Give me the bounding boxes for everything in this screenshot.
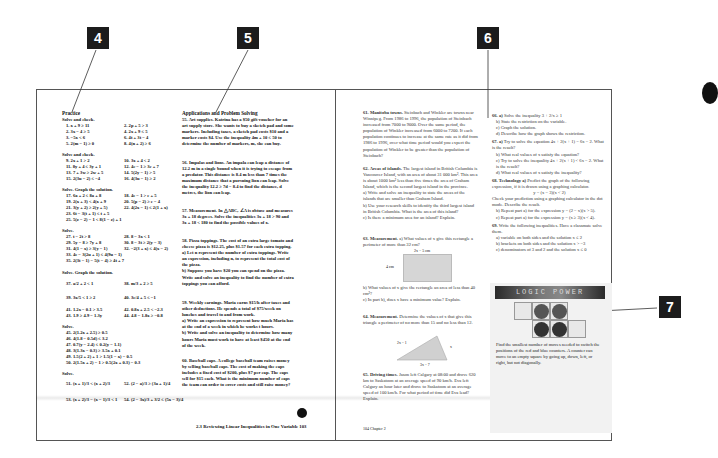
part-label: b) <box>496 241 500 246</box>
empty-square <box>568 320 586 338</box>
problem-label: 69. <box>492 223 498 228</box>
rectangle-side-label: 4 cm <box>386 264 394 270</box>
exercise-item: 15. 2(3u − 2) ≤ −4 <box>66 176 100 182</box>
problem-label: 65. Driving times. <box>363 372 398 377</box>
exercise-item: 32. −2(3 + x) ≤ 4(x − 2) <box>124 246 168 252</box>
part-text: Suppose you have $20 you can spend on th… <box>182 268 294 285</box>
part-text: What values of x give the rectangle an a… <box>363 285 475 296</box>
exercise-item: 43. 1.9 ≥ 4.9 − 1.3y <box>66 313 102 319</box>
problem-56: 56. Impalas and lions. An impala can lea… <box>182 160 294 197</box>
practice-heading: Practice <box>62 110 172 116</box>
exercise-item: 50. 2(1.5x + 2) − 1 > 0.5(2x + 0.3) − 0.… <box>66 360 140 366</box>
part-label: b) <box>363 285 367 290</box>
part-text: Write and solve an inequality to determi… <box>182 330 292 347</box>
part-text: What real values of x satisfy the inequa… <box>501 170 582 175</box>
problem-label: 66. a) <box>492 113 503 118</box>
callout-4: 4 <box>87 27 109 49</box>
part-label: c) <box>496 158 500 163</box>
problem-label: 59. Weekly earnings. <box>182 300 223 305</box>
problem-text: Steinbach and Winkler are towns near Win… <box>363 110 478 158</box>
blue-counter <box>534 322 549 337</box>
blue-counter <box>552 322 567 337</box>
exercise-item: 22. 4(2x − 1) ≤ 2(1 + x) <box>124 205 168 211</box>
problem-text: Solve the inequality 3 + 2/x ≥ 1 <box>504 113 562 118</box>
problem-label: 62. Areas of islands. <box>363 166 402 171</box>
part-text: In part b), does x have a minimum value?… <box>368 297 461 302</box>
problem-64: 64. Measurement. Determine the values of… <box>363 314 478 326</box>
problem-60: 60. Baseball caps. A college baseball te… <box>182 358 294 388</box>
part-text: Write an expression to represent how muc… <box>182 318 293 329</box>
part-label: c) <box>363 215 367 220</box>
problem-label: 60. Baseball caps. <box>182 358 216 363</box>
part-label: c) <box>496 247 500 252</box>
triangle-bottom-label: 3x − 7 <box>420 362 430 368</box>
problem-label: 63. Measurement. <box>363 236 398 241</box>
exercise-item: 25. 5(z − 2) − 1 < 8(1 − z) + 1 <box>66 217 121 223</box>
problem-label: 58. Pizza toppings. <box>182 238 219 243</box>
triangle-diagram <box>395 334 455 364</box>
part-text: Check your prediction using a graphing c… <box>492 196 603 207</box>
part-label: a) <box>363 190 367 195</box>
problem-label: 68. Technology a) <box>492 178 526 183</box>
exercise-item: 52. (2 − a)/3 ≥ (3a + 1)/4 <box>124 381 170 387</box>
exercise-item: 53. (x + 2)/3 − (x − 1)/3 < 1 <box>66 397 117 403</box>
problem-label: 67. a) <box>492 139 503 144</box>
part-label: a) <box>496 235 500 240</box>
problem-58: 58. Pizza toppings. The cost of an extra… <box>182 238 294 287</box>
part-label: c) <box>496 215 500 220</box>
part-label: a) <box>182 318 186 323</box>
part-label: b) <box>363 203 367 208</box>
group-title: Solve. <box>62 371 74 377</box>
exercise-item: 38. m/3 + 2 ≥ 5 <box>124 281 153 287</box>
part-text: State the restriction on the variable. <box>501 119 566 124</box>
exercise-item: 54. (2 − 3x)/3 + 3/2 ≤ (5x − 3)/4 <box>124 397 183 403</box>
callout-6: 6 <box>477 27 499 49</box>
problem-label: 56. Impalas and lions. <box>182 160 225 165</box>
problem-63: 63. Measurement. a) What values of x giv… <box>363 236 478 248</box>
triangle-left-label: 2x − 1 <box>397 340 407 346</box>
logic-power-text: Find the smallest number of moves needed… <box>496 342 602 366</box>
part-text: variable on both sides and the solution … <box>501 235 582 240</box>
expression: y = (x − 3)(x < 2) <box>533 190 565 195</box>
part-label: c) <box>496 125 500 130</box>
part-text: What real values of x satisfy the equati… <box>501 152 579 157</box>
problem-59: 59. Weekly earnings. Maria earns $15/h a… <box>182 300 294 349</box>
rectangle-diagram <box>403 254 452 282</box>
part-text: Repeat part a) for the expression y = (2… <box>501 208 595 213</box>
callout-5: 5 <box>237 27 259 49</box>
scan-blot <box>702 82 718 104</box>
problem-text: Write the following inequalities. Have a… <box>492 223 602 234</box>
part-text: brackets on both sides and the solution … <box>501 241 585 246</box>
part-label: d) <box>496 170 500 175</box>
problem-65: 65. Driving times. Jason left Calgary at… <box>363 372 478 402</box>
empty-square <box>514 302 532 320</box>
part-text: Graph the solution. <box>501 125 536 130</box>
problem-label: 57. Measurement. <box>182 208 217 213</box>
problem-label: 61. Manitoba towns. <box>363 110 403 115</box>
part-label: b) <box>496 152 500 157</box>
part-text: denominators of 3 and 2 and the solution… <box>501 247 587 252</box>
part-label: b) <box>496 208 500 213</box>
group-title: Solve. Graph the solution. <box>62 270 113 276</box>
part-text: Use your research skills to identify the… <box>363 203 474 214</box>
problem-text: An impala can leap a distance of 12.2 m … <box>182 160 292 195</box>
problem-62: 62. Areas of islands. The largest island… <box>363 166 478 221</box>
red-counter <box>552 304 567 319</box>
exercise-item: 51. (x + 1)/3 < (x + 2)/3 <box>66 381 110 387</box>
part-label: d) <box>496 131 500 136</box>
left-page-footer: 2.3 Reviewing Linear Inequalities in One… <box>196 424 307 429</box>
scan-blot <box>297 408 307 418</box>
problems-66-69: 66. a) Solve the inequality 3 + 2/x ≥ 1 … <box>492 113 607 253</box>
triangle-right-label: x <box>450 344 452 350</box>
red-counter <box>534 304 549 319</box>
part-label: c) <box>363 297 367 302</box>
applications-heading: Applications and Problem Solving <box>182 110 258 116</box>
exercise-item: 35. 2(3t − 1) − 5(t − 4) ≥ 4t + 7 <box>66 258 124 264</box>
problem-57: 57. Measurement. In △ABC, ∠A is obtuse a… <box>182 208 294 226</box>
problem-label: 64. Measurement. <box>363 314 398 319</box>
exercise-item: 16. 4(3u − 1) ≥ 2 <box>124 176 155 182</box>
part-label: b) <box>182 330 186 335</box>
part-text: Is there a minimum area for an island? E… <box>368 215 455 220</box>
problem-61: 61. Manitoba towns. Steinbach and Winkle… <box>363 110 478 159</box>
exercise-item: 5. 2(m − 1) ≥ 0 <box>66 141 94 147</box>
